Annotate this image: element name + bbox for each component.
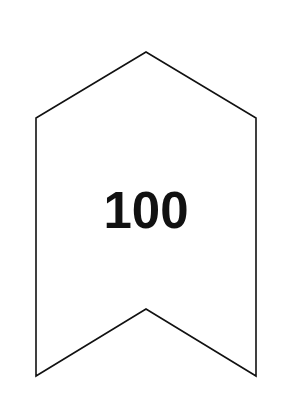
banner-number-label: 100 — [36, 181, 256, 241]
